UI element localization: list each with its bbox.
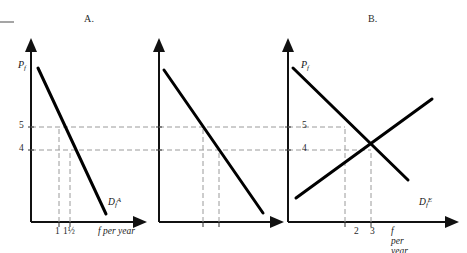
- panel-a-y-axis-label: Pf: [18, 59, 26, 72]
- panel-b: B. Pf 5 4 2 3 f per year DfE: [155, 0, 290, 253]
- panel-a-demand-label-sup: A: [117, 196, 121, 204]
- panel-a-demand-curve-label: DfA: [108, 196, 121, 209]
- panel-a-y-tick-label-4: 4: [19, 143, 24, 153]
- panel-a-title: A.: [84, 13, 94, 24]
- panel-a-x-tick-label-1-half: 1½: [63, 226, 75, 236]
- panel-a-x-tick-label-1: 1: [55, 226, 60, 236]
- panel-a-y-axis-label-sub: f: [24, 64, 26, 72]
- three-panel-foreign-exchange-diagram: A. Pf 5 4 1 1½ f per year DfA B. Pf 5 4 …: [0, 0, 467, 253]
- panel-a: A. Pf 5 4 1 1½ f per year DfA: [0, 0, 155, 253]
- panel-a-demand-label-base: D: [108, 197, 115, 207]
- panel-a-x-axis-label: f per year: [98, 226, 135, 236]
- panel-a-x-axis-label-text: f per year: [98, 226, 135, 236]
- panel-a-y-tick-label-5: 5: [19, 120, 24, 130]
- panel-c: C. Pf 5 4 3 4½ f per year DfA + E Sf: [290, 0, 467, 253]
